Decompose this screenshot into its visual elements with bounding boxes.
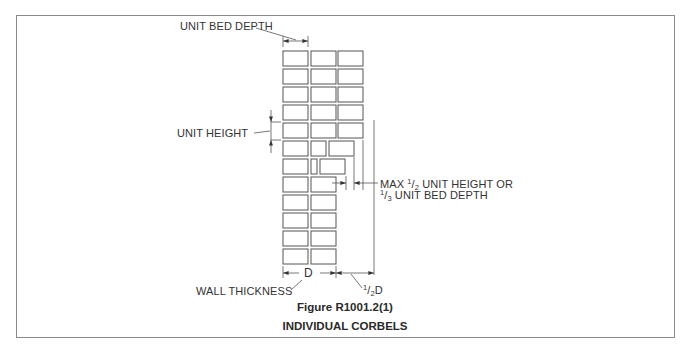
unit-height-leader (254, 131, 270, 133)
brick-row-8 (283, 177, 336, 192)
corbel-drawing (0, 0, 690, 351)
brick-row-7 (283, 159, 345, 174)
figure-number: Figure R1001.2(1) (0, 301, 690, 313)
brick-row-10 (283, 213, 336, 228)
brick-row-6 (283, 141, 354, 156)
unit-height-label: UNIT HEIGHT (177, 127, 248, 139)
figure-title: INDIVIDUAL CORBELS (0, 320, 690, 332)
brick-row-9 (283, 195, 336, 210)
half-d-suffix: D (375, 284, 383, 296)
brick-row-4 (283, 105, 363, 120)
brick-row-11 (283, 231, 336, 246)
d-label: D (304, 266, 313, 280)
fraction-numerator: 1 (380, 188, 384, 197)
unit-bed-depth-label: UNIT BED DEPTH (180, 20, 273, 32)
wall-thickness-label: WALL THICKNESS (196, 285, 292, 297)
max-line2-suffix: UNIT BED DEPTH (392, 189, 488, 201)
half-d-leader (351, 274, 362, 288)
max-projection-label-line2: 1/3 UNIT BED DEPTH (380, 188, 488, 203)
fraction-numerator: 1 (407, 177, 411, 186)
fraction-numerator: 1 (363, 283, 367, 292)
brick-row-3 (283, 87, 363, 102)
brick-row-1 (283, 51, 363, 66)
brick-row-2 (283, 69, 363, 84)
brick-row-12 (283, 249, 336, 264)
brick-row-5 (283, 123, 363, 138)
wall-thickness-leader (291, 280, 302, 290)
half-d-label: 1/2D (363, 283, 383, 298)
